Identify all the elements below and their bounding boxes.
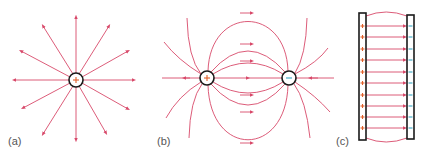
dipole-field-lines	[162, 13, 334, 143]
panel-c-label: (c)	[336, 135, 349, 147]
panel-a-point-charge	[14, 17, 134, 140]
positive-plate	[359, 13, 366, 140]
uniform-field-lines	[366, 12, 407, 142]
panel-b-dipole	[162, 13, 334, 143]
panel-c-parallel-plates	[359, 12, 414, 142]
electric-field-diagram	[0, 0, 429, 163]
panel-b-label: (b)	[157, 135, 170, 147]
negative-plate	[407, 15, 414, 139]
panel-a-label: (a)	[8, 135, 21, 147]
